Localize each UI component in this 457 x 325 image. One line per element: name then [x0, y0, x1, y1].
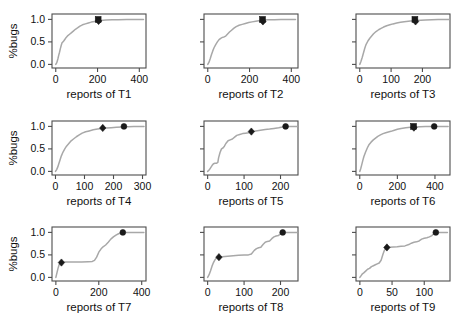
y-tick-label: 1.0 [30, 226, 45, 238]
x-tick-label: 200 [272, 286, 290, 298]
marker-diamond [248, 128, 254, 135]
y-tick-label: 1.0 [30, 13, 45, 25]
x-tick-label: 100 [76, 180, 94, 192]
plot-t4: 0.00.51.00100200300reports of T4%bugs [0, 107, 152, 215]
x-tick-label: 200 [414, 73, 432, 85]
x-tick-label: 0 [205, 180, 211, 192]
panel-t3: 0100200reports of T3 [304, 0, 456, 108]
panel-t2: 0200400reports of T2 [152, 0, 304, 108]
panel-t1: 0.00.51.00200400reports of T1%bugs [0, 0, 152, 108]
marker-circle [431, 124, 437, 130]
curve-t4 [55, 126, 143, 171]
plot-t5: 0100200reports of T5 [152, 107, 304, 215]
panel-t6: 0200400reports of T6 [304, 107, 456, 215]
x-axis-label: reports of T5 [219, 195, 284, 207]
y-tick-label: 0.0 [30, 58, 45, 70]
x-tick-label: 0 [53, 73, 59, 85]
curve-t1 [56, 19, 144, 64]
plot-t1: 0.00.51.00200400reports of T1%bugs [0, 0, 152, 108]
plot-t6: 0200400reports of T6 [304, 107, 456, 215]
x-tick-label: 200 [389, 180, 407, 192]
marker-diamond [216, 254, 222, 261]
x-tick-label: 400 [131, 73, 149, 85]
y-tick-label: 0.0 [30, 165, 45, 177]
x-tick-label: 100 [415, 286, 433, 298]
plot-t7: 0.00.51.00200400reports of T7%bugs [0, 213, 152, 321]
y-tick-label: 0.5 [30, 142, 45, 154]
panel-t5: 0100200reports of T5 [152, 107, 304, 215]
x-tick-label: 100 [235, 180, 253, 192]
bug-discovery-figure: 0.00.51.00200400reports of T1%bugs020040… [0, 0, 457, 325]
plot-t9: 050100reports of T9 [304, 213, 456, 321]
x-axis-label: reports of T4 [67, 195, 133, 207]
plot-t2: 0200400reports of T2 [152, 0, 304, 108]
marker-circle [120, 230, 126, 236]
x-tick-label: 0 [357, 286, 363, 298]
x-axis-label: reports of T8 [219, 301, 284, 313]
x-tick-label: 200 [272, 180, 290, 192]
x-axis-label: reports of T2 [219, 88, 284, 100]
curve-t3 [360, 19, 449, 64]
curve-t9 [360, 232, 448, 277]
x-tick-label: 200 [89, 73, 107, 85]
panel-t7: 0.00.51.00200400reports of T7%bugs [0, 213, 152, 321]
plot-t3: 0100200reports of T3 [304, 0, 456, 108]
marker-circle [283, 124, 289, 130]
x-tick-label: 0 [357, 73, 363, 85]
curve-t8 [208, 232, 297, 277]
y-axis-label: %bugs [7, 23, 19, 58]
x-tick-label: 200 [90, 286, 108, 298]
x-axis-label: reports of T9 [371, 301, 436, 313]
x-tick-label: 400 [426, 180, 444, 192]
x-tick-label: 400 [133, 286, 151, 298]
plot-t8: 0100200reports of T8 [152, 213, 304, 321]
x-tick-label: 100 [382, 73, 400, 85]
plot-frame [52, 227, 146, 281]
x-tick-label: 300 [134, 180, 152, 192]
marker-circle [280, 230, 286, 236]
curve-t6 [360, 126, 448, 171]
y-tick-label: 0.5 [30, 248, 45, 260]
x-tick-label: 0 [357, 180, 363, 192]
marker-circle [433, 230, 439, 236]
marker-diamond [100, 124, 106, 131]
panel-t8: 0100200reports of T8 [152, 213, 304, 321]
x-tick-label: 200 [241, 73, 259, 85]
x-axis-label: reports of T7 [67, 301, 132, 313]
curve-t7 [56, 232, 144, 277]
x-tick-label: 400 [283, 73, 301, 85]
y-axis-label: %bugs [7, 130, 19, 165]
x-tick-label: 0 [53, 286, 59, 298]
y-tick-label: 0.0 [30, 271, 45, 283]
y-tick-label: 0.5 [30, 35, 45, 47]
x-tick-label: 0 [53, 180, 59, 192]
panel-t4: 0.00.51.00100200300reports of T4%bugs [0, 107, 152, 215]
x-tick-label: 100 [235, 286, 253, 298]
x-axis-label: reports of T6 [371, 195, 436, 207]
x-axis-label: reports of T1 [67, 88, 132, 100]
y-axis-label: %bugs [7, 236, 19, 271]
x-tick-label: 0 [205, 73, 211, 85]
y-tick-label: 1.0 [30, 120, 45, 132]
x-tick-label: 0 [205, 286, 211, 298]
marker-circle [121, 124, 127, 130]
curve-t2 [208, 19, 296, 64]
x-tick-label: 200 [105, 180, 123, 192]
panel-t9: 050100reports of T9 [304, 213, 456, 321]
x-axis-label: reports of T3 [371, 88, 436, 100]
x-tick-label: 50 [386, 286, 398, 298]
